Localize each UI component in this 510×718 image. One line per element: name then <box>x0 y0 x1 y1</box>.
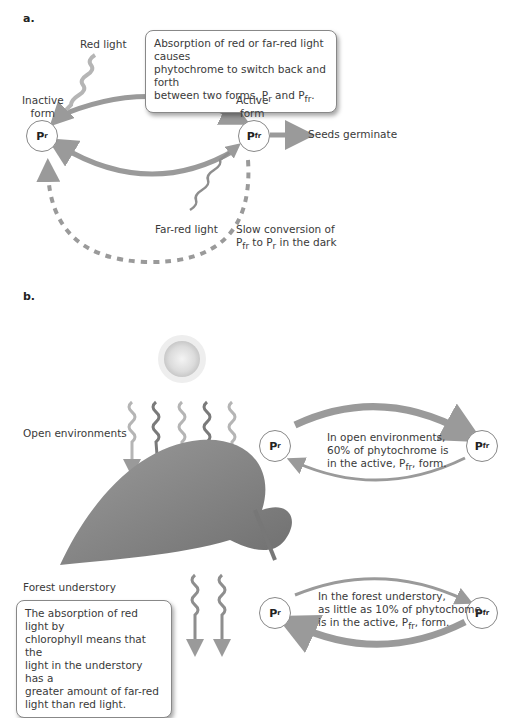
callout-line: The absorption of red light by <box>25 607 163 633</box>
sun-icon <box>158 335 206 383</box>
callout-line: phytochrome to switch back and forth <box>154 63 328 89</box>
open-environments-label: Open environments <box>23 427 127 440</box>
open-cycle-text: In open environments, 60% of phytochrome… <box>327 431 449 474</box>
forest-callout: The absorption of red light by chlorophy… <box>16 600 172 718</box>
active-form-label: Activeform <box>236 94 268 120</box>
forest-pr-node: Pr <box>259 597 291 629</box>
callout-line: light than red light. <box>25 698 163 711</box>
far-red-light-label: Far-red light <box>155 223 218 236</box>
forest-cycle-text: In the forest understory, as little as 1… <box>318 590 481 633</box>
open-forward-arrow <box>295 407 465 432</box>
inactive-form-label: Inactiveform <box>22 94 64 120</box>
pr-node: Pr <box>26 120 58 152</box>
leaf-illustration <box>60 440 292 565</box>
callout-line: chlorophyll means that the <box>25 633 163 659</box>
red-light-label: Red light <box>80 38 127 51</box>
forest-understory-label: Forest understory <box>23 581 116 594</box>
pfr-node: Pfr <box>238 120 270 152</box>
panel-b-label: b. <box>23 290 35 303</box>
callout-line: Absorption of red or far-red light cause… <box>154 37 328 63</box>
open-pr-node: Pr <box>259 430 291 462</box>
pfr-to-pr-arrow <box>60 146 235 174</box>
far-red-light-wave <box>190 148 235 210</box>
callout-line: greater amount of far-red <box>25 685 163 698</box>
panel-a-label: a. <box>23 12 35 25</box>
open-pfr-node: Pfr <box>466 430 498 462</box>
understory-light-waves <box>192 575 225 648</box>
callout-line: light in the understory has a <box>25 659 163 685</box>
slow-conversion-label: Slow conversion of Pfr to Pr in the dark <box>236 223 337 253</box>
seeds-germinate-label: Seeds germinate <box>308 128 397 141</box>
